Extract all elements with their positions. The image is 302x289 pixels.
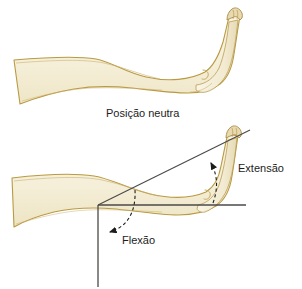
ankle-movement-figure: Posição neutra Extensão Flexão xyxy=(0,0,302,289)
extension-label: Extensão xyxy=(238,162,284,175)
neutral-position-illustration xyxy=(14,8,242,104)
flexion-label: Flexão xyxy=(122,234,155,247)
neutral-position-label: Posição neutra xyxy=(106,107,179,120)
motion-leg-shape xyxy=(12,134,238,227)
range-of-motion-illustration xyxy=(12,126,250,287)
